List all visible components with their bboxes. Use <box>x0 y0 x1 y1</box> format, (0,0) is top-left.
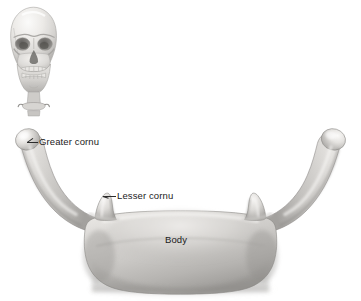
anatomy-figure: Greater cornu Lesser cornu Body <box>0 0 361 301</box>
label-body: Body <box>165 234 187 245</box>
leader-line-greater-cornu <box>27 142 38 143</box>
hyoid-bone <box>13 126 348 298</box>
body-right-corner-shadow <box>246 230 278 282</box>
hyoid-bone-layer <box>0 0 361 301</box>
body-left-corner-shadow <box>83 230 115 282</box>
label-greater-cornu: Greater cornu <box>39 136 99 147</box>
label-lesser-cornu: Lesser cornu <box>117 190 173 201</box>
